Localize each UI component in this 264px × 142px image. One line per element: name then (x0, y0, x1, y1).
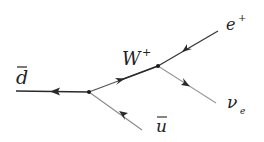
label-e-plus: e + (226, 12, 246, 34)
svg-text:d: d (16, 66, 28, 88)
neutrino-line (158, 66, 216, 103)
svg-text:W: W (122, 48, 142, 69)
arrow-down-left-icon (182, 44, 192, 52)
vertex-left (87, 90, 91, 94)
feynman-diagram: d W + e + ν e u (0, 0, 264, 142)
label-d-bar: d (16, 66, 28, 88)
svg-text:+: + (142, 46, 151, 59)
u-bar-propagator (89, 92, 142, 130)
svg-text:ν: ν (227, 92, 237, 112)
svg-text:u: u (156, 116, 167, 136)
svg-text:e: e (226, 15, 235, 34)
label-w-plus: W + (122, 46, 151, 69)
d-bar-propagator (16, 88, 89, 96)
label-u-bar: u (156, 116, 167, 136)
positron-line (158, 31, 218, 66)
svg-text:e: e (240, 106, 245, 116)
label-nu-e: ν e (227, 92, 245, 116)
vertex-right (156, 64, 160, 68)
arrow-down-right-icon (181, 78, 190, 87)
w-boson-propagator (89, 66, 158, 92)
svg-text:+: + (238, 12, 246, 23)
